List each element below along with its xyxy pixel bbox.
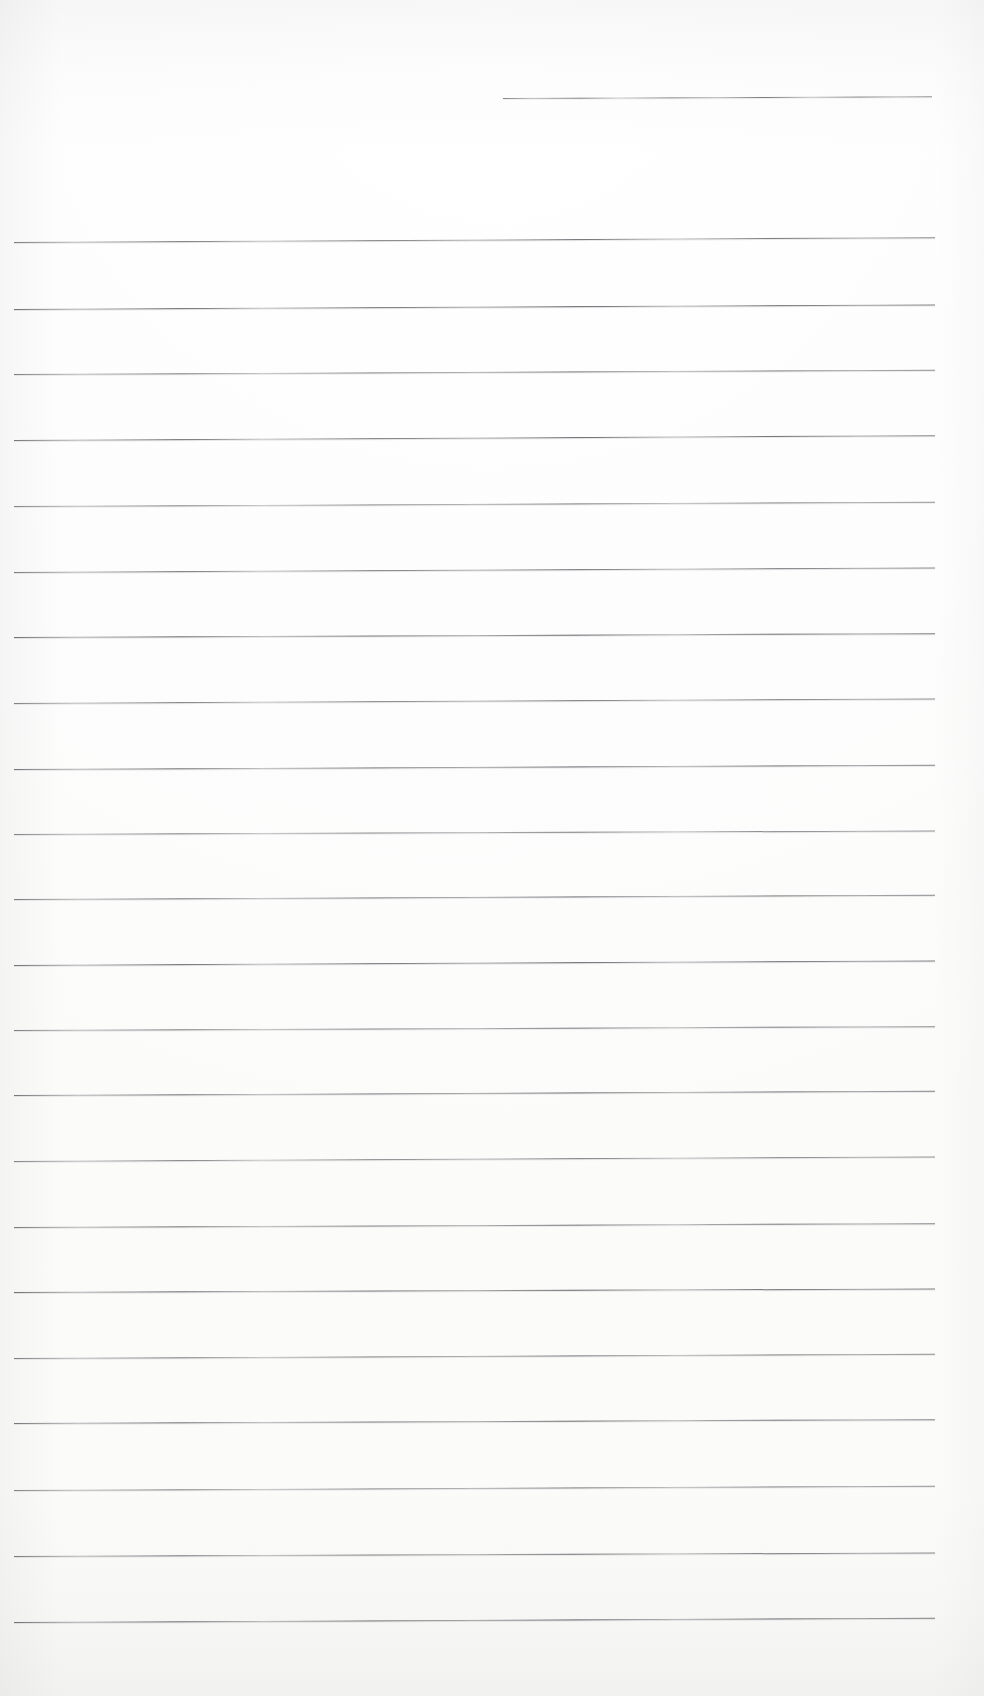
paper-background bbox=[0, 0, 984, 1696]
scanned-page bbox=[0, 0, 984, 1696]
